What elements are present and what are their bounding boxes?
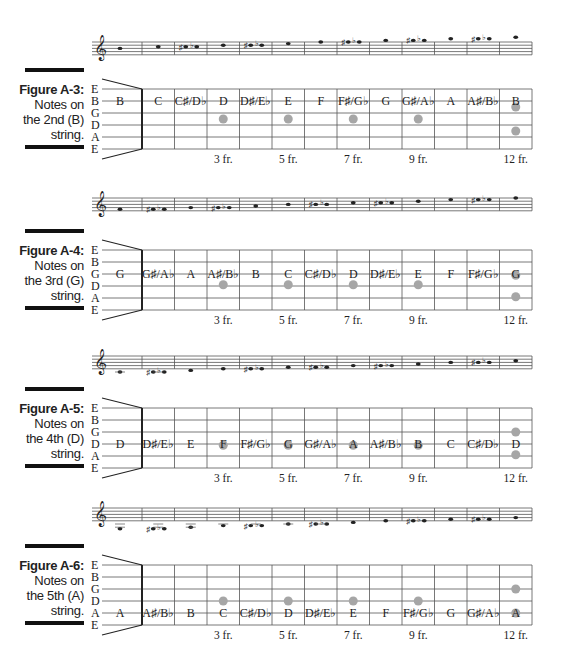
note-label: D♯/E♭ <box>305 606 336 620</box>
note-head <box>351 521 356 524</box>
note-label: G <box>446 606 455 620</box>
note-head <box>487 518 492 521</box>
fret-number-label: 9 fr. <box>409 629 428 641</box>
music-staff: 𝄞♯♭♯♭♯♭♯♭♯♭ <box>92 501 532 534</box>
fret-number-label: 12 fr. <box>504 629 528 641</box>
fret-marker-dot <box>414 597 423 606</box>
note-label: E <box>350 606 357 620</box>
sharp-icon: ♯ <box>406 517 410 526</box>
note-label: G♯/A♭ <box>467 606 500 620</box>
flat-icon: ♭ <box>482 513 486 522</box>
note-head <box>411 519 416 522</box>
note-label: F <box>382 606 389 620</box>
note-label: F♯/G♭ <box>403 606 434 620</box>
diagram-svg: 𝄞♯♭♯♭♯♭♯♭♯♭AA♯/B♭BCC♯/D♭DD♯/E♭EFF♯/G♭GG♯… <box>0 0 563 671</box>
flat-icon: ♭ <box>417 515 421 524</box>
note-head <box>476 518 481 521</box>
note-head <box>248 524 253 527</box>
note-head <box>151 527 156 530</box>
note-head <box>162 527 167 530</box>
treble-clef-icon: 𝄞 <box>94 501 107 527</box>
flat-icon: ♭ <box>320 518 324 527</box>
note-head <box>259 524 264 527</box>
fret-number-label: 3 fr. <box>214 629 233 641</box>
note-label: A <box>511 606 520 620</box>
note-label: B <box>187 606 195 620</box>
note-label: A <box>116 606 125 620</box>
fret-number-label: 7 fr. <box>344 629 363 641</box>
note-label: C♯/D♭ <box>240 606 272 620</box>
note-label: D <box>284 606 293 620</box>
note-label: A♯/B♭ <box>142 606 174 620</box>
note-label: C <box>219 606 227 620</box>
fret-marker-dot <box>284 597 293 606</box>
note-head <box>513 516 518 519</box>
note-head <box>448 518 453 521</box>
note-head <box>221 524 226 527</box>
sharp-icon: ♯ <box>309 520 313 529</box>
note-head <box>383 519 388 522</box>
note-head <box>422 519 427 522</box>
fret-marker-dot <box>349 597 358 606</box>
sharp-icon: ♯ <box>471 515 475 524</box>
fret-number-label: 5 fr. <box>279 629 298 641</box>
fret-marker-dot <box>219 597 228 606</box>
fretboard: AA♯/B♭BCC♯/D♭DD♯/E♭EFF♯/G♭GG♯/A♭A3 fr.5 … <box>102 555 532 641</box>
note-head <box>118 527 123 530</box>
sharp-icon: ♯ <box>146 525 150 534</box>
sharp-icon: ♯ <box>244 522 248 531</box>
fret-marker-dot <box>511 585 520 594</box>
